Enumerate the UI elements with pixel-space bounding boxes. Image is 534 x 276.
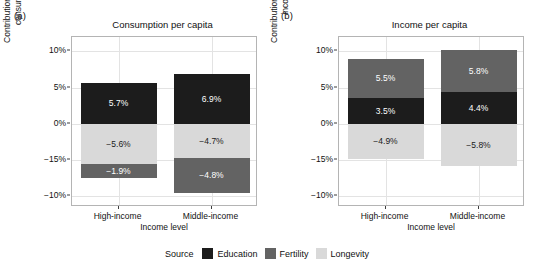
y-axis-title-a-line1: Contribution to the growth rate of [2, 0, 13, 66]
chart-panel-a: (a) Consumption per capita Contribution … [0, 0, 267, 240]
x-tick-label: Middle-income [183, 211, 238, 221]
y-tick-label: 0% [321, 118, 333, 128]
legend-swatch-education-icon [202, 248, 213, 259]
x-tick-mark [211, 206, 212, 209]
bar-segment-fertility[interactable]: −4.8% [174, 158, 250, 193]
plot-area-b: 3.5%5.5%−4.9%4.4%5.8%−5.8% [338, 36, 524, 206]
y-axis-title-a-line2: consumption per capita [13, 0, 24, 66]
y-tick-mark [67, 50, 70, 51]
y-tick-mark [67, 86, 70, 87]
x-axis-title-a: Income level [71, 222, 257, 232]
y-tick-label: −15% [311, 154, 333, 164]
legend-item-fertility[interactable]: Fertility [265, 248, 309, 259]
y-axis-title-b-line2: income per capita [280, 0, 291, 66]
bar-segment-education[interactable]: 6.9% [174, 74, 250, 124]
x-axis-title-b: Income level [338, 222, 524, 232]
legend-label-fertility: Fertility [280, 249, 309, 259]
bar-stack[interactable]: 3.5%5.5%−4.9% [348, 37, 424, 206]
bar-segment-longevity[interactable]: −5.6% [81, 124, 157, 165]
bar-segment-education[interactable]: 4.4% [441, 92, 517, 124]
bar-segment-education[interactable]: 3.5% [348, 98, 424, 123]
panel-title-a: Consumption per capita [66, 19, 259, 30]
y-tick-mark [334, 122, 337, 123]
legend-label-education: Education [217, 249, 257, 259]
y-axis-title-b: Contribution to the growth rate of incom… [269, 0, 299, 66]
legend-label-longevity: Longevity [331, 249, 370, 259]
bar-segment-fertility[interactable]: 5.8% [441, 50, 517, 92]
y-axis-ticks-a: 10%5%0%−15%−10% [36, 36, 70, 206]
x-tick-mark [118, 206, 119, 209]
legend-swatch-fertility-icon [265, 248, 276, 259]
x-tick-label: High-income [361, 211, 409, 221]
chart-panel-b: (b) Income per capita Contribution to th… [267, 0, 534, 240]
y-tick-label: 10% [49, 45, 66, 55]
bar-segment-fertility[interactable]: −1.9% [81, 164, 157, 178]
x-tick-label: High-income [94, 211, 142, 221]
y-tick-mark [67, 195, 70, 196]
bar-segment-longevity[interactable]: −5.8% [441, 124, 517, 166]
bar-segment-education[interactable]: 5.7% [81, 83, 157, 124]
plot-area-a: 5.7%−5.6%−1.9%6.9%−4.7%−4.8% [71, 36, 257, 206]
panel-title-b: Income per capita [333, 19, 526, 30]
y-tick-label: 10% [316, 45, 333, 55]
legend-item-longevity[interactable]: Longevity [316, 248, 370, 259]
y-tick-label: −10% [311, 190, 333, 200]
y-tick-mark [67, 158, 70, 159]
y-tick-mark [334, 195, 337, 196]
figure-root: (a) Consumption per capita Contribution … [0, 0, 534, 276]
bar-segment-longevity[interactable]: −4.7% [174, 124, 250, 158]
x-tick-mark [385, 206, 386, 209]
bar-segment-fertility[interactable]: 5.5% [348, 59, 424, 99]
y-tick-label: 5% [54, 82, 66, 92]
y-tick-label: −10% [44, 190, 66, 200]
y-axis-title-b-line1: Contribution to the growth rate of [269, 0, 280, 66]
y-tick-mark [334, 86, 337, 87]
legend-item-education[interactable]: Education [202, 248, 257, 259]
bar-segment-longevity[interactable]: −4.9% [348, 124, 424, 159]
legend-swatch-longevity-icon [316, 248, 327, 259]
chart-legend: Source Education Fertility Longevity [0, 248, 534, 259]
bar-stack[interactable]: 5.7%−5.6%−1.9% [81, 37, 157, 206]
bar-stack[interactable]: 6.9%−4.7%−4.8% [174, 37, 250, 206]
y-axis-ticks-b: 10%5%0%−15%−10% [303, 36, 337, 206]
y-tick-mark [334, 50, 337, 51]
legend-title: Source [165, 249, 194, 259]
y-tick-label: 0% [54, 118, 66, 128]
y-axis-title-a: Contribution to the growth rate of consu… [2, 0, 32, 66]
x-tick-label: Middle-income [450, 211, 505, 221]
y-tick-label: −15% [44, 154, 66, 164]
bar-stack[interactable]: 4.4%5.8%−5.8% [441, 37, 517, 206]
y-tick-label: 5% [321, 82, 333, 92]
y-tick-mark [334, 158, 337, 159]
x-tick-mark [478, 206, 479, 209]
y-tick-mark [67, 122, 70, 123]
